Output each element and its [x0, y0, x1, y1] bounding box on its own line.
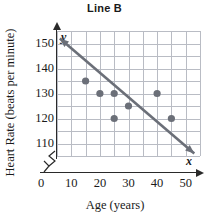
y-tick-label: 120: [20, 111, 54, 126]
gridline-horizontal: [57, 81, 200, 82]
x-axis-title: Age (years): [30, 198, 200, 213]
x-axis-line: [40, 172, 198, 173]
plot-area: [57, 31, 200, 156]
gridline-horizontal: [57, 156, 200, 157]
x-axis-variable-label: x: [186, 154, 192, 169]
gridline-horizontal: [57, 144, 200, 145]
x-tick-label: 40: [142, 176, 172, 191]
gridline-horizontal: [57, 106, 200, 107]
gridline-horizontal: [57, 44, 200, 45]
y-tick-label: 110: [20, 136, 54, 151]
gridline-horizontal: [57, 56, 200, 57]
gridline-horizontal: [57, 94, 200, 95]
y-tick-label: 150: [20, 36, 54, 51]
y-tick-label: 130: [20, 86, 54, 101]
y-axis-variable-label: y: [61, 30, 66, 45]
gridline-vertical: [200, 31, 201, 156]
gridline-horizontal: [57, 119, 200, 120]
chart-container: Line B Heart Rate (beats per minute) Age…: [0, 0, 209, 218]
gridline-horizontal: [57, 131, 200, 132]
x-tick-label: 0: [26, 176, 56, 191]
gridline-horizontal: [57, 31, 200, 32]
x-axis-ticks: 01020304050: [0, 176, 209, 198]
x-tick-label: 10: [56, 176, 86, 191]
y-axis-line: [56, 29, 57, 159]
x-tick-label: 30: [114, 176, 144, 191]
x-tick-label: 50: [171, 176, 201, 191]
x-tick-label: 20: [85, 176, 115, 191]
y-tick-label: 140: [20, 61, 54, 76]
gridline-horizontal: [57, 69, 200, 70]
